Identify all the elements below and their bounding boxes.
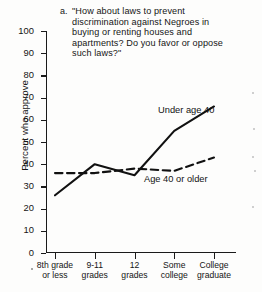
scan-speck — [253, 128, 255, 130]
y-axis-tick-label: 90 — [24, 47, 34, 58]
y-axis-tick-label: 50 — [24, 136, 34, 147]
plot-area: 0102030405060708090100 8th gradeor less9… — [46, 31, 236, 253]
title-list-marker: a. — [60, 6, 68, 16]
x-axis-tick — [95, 253, 96, 259]
x-axis-tick — [55, 253, 56, 259]
scan-speck — [252, 92, 254, 94]
y-axis-tick-label: 30 — [24, 180, 34, 191]
scan-speck — [252, 206, 254, 208]
series-line-age-40-or-older — [55, 158, 214, 174]
y-axis-tick-label: 100 — [18, 25, 34, 36]
scan-speck — [254, 170, 256, 172]
y-axis-tick-label: 40 — [24, 158, 34, 169]
y-axis-tick-label: 0 — [29, 247, 34, 258]
x-axis-tick — [214, 253, 215, 259]
chart-figure: a. "How about laws to prevent discrimina… — [0, 0, 262, 292]
y-axis-tick-label: 60 — [24, 113, 34, 124]
y-axis-tick-label: 10 — [24, 224, 34, 235]
y-axis-label: Percent who approve — [19, 61, 30, 191]
x-axis-tick-label: Collegegraduate — [182, 261, 246, 281]
x-axis-tick-label-line: graduate — [182, 271, 246, 281]
x-axis-tick — [174, 253, 175, 259]
y-axis-tick: 0 — [41, 253, 46, 254]
series-label-age-40-or-older: Age 40 or older — [144, 174, 208, 184]
scan-speck — [252, 156, 254, 158]
title-line: "How about laws to prevent — [72, 6, 240, 17]
x-axis-tick — [135, 253, 136, 259]
title-line: discrimination against Negroes in — [72, 17, 240, 28]
y-axis-tick-label: 70 — [24, 91, 34, 102]
y-axis-tick-label: 20 — [24, 202, 34, 213]
y-axis-tick-label: 80 — [24, 69, 34, 80]
series-lines — [46, 31, 236, 253]
series-label-under-age-40: Under age 40 — [158, 105, 214, 115]
